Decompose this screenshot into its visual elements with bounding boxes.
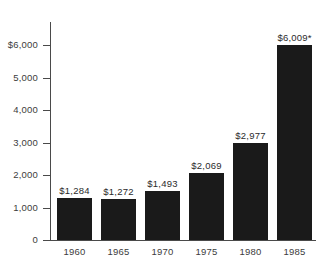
bar-value-label-1970: $1,493 <box>136 178 189 189</box>
bar-1960 <box>57 198 92 240</box>
y-tick-label-4000: 4,000 <box>13 104 38 115</box>
y-tick-label-0: 0 <box>33 234 38 245</box>
x-axis-label-1975: 1975 <box>183 246 230 257</box>
bar-1970 <box>145 191 180 240</box>
x-axis-label-1980: 1980 <box>227 246 274 257</box>
y-tick-label-2000: 2,000 <box>13 169 38 180</box>
x-axis-line <box>50 240 316 241</box>
y-tick-4000 <box>43 110 50 111</box>
bar-value-label-1985: $6,009* <box>268 32 321 43</box>
y-tick-1000 <box>43 208 50 209</box>
y-tick-label-1000: 1,000 <box>13 202 38 213</box>
y-tick-2000 <box>43 175 50 176</box>
y-axis-line <box>50 22 51 241</box>
bar-1965 <box>101 199 136 240</box>
y-tick-6000 <box>43 45 50 46</box>
x-axis-label-1960: 1960 <box>51 246 98 257</box>
x-axis-label-1970: 1970 <box>139 246 186 257</box>
y-tick-label-3000: 3,000 <box>13 137 38 148</box>
y-tick-5000 <box>43 78 50 79</box>
bar-1980 <box>233 143 268 240</box>
y-tick-label-5000: 5,000 <box>13 72 38 83</box>
x-axis-label-1965: 1965 <box>95 246 142 257</box>
bar-value-label-1975: $2,069 <box>180 160 233 171</box>
y-tick-label-6000: $6,000 <box>8 39 38 50</box>
x-axis-label-1985: 1985 <box>271 246 318 257</box>
y-tick-3000 <box>43 143 50 144</box>
y-tick-0 <box>43 240 50 241</box>
bar-1985 <box>277 45 312 240</box>
bar-1975 <box>189 173 224 240</box>
bar-value-label-1980: $2,977 <box>224 130 277 141</box>
bar-chart: 01,0002,0003,0004,0005,000$6,000 $1,284$… <box>0 0 321 275</box>
